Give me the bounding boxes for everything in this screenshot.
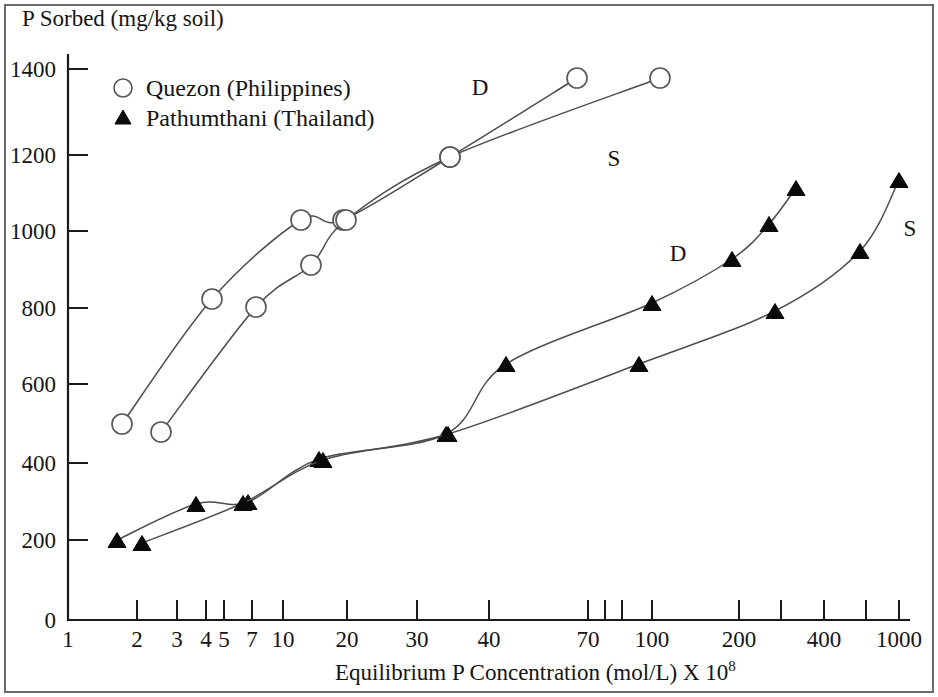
x-axis-title-text: Equilibrium P Concentration (mol/L) X 10: [335, 660, 728, 685]
filled-triangle-data-marker: [630, 357, 648, 372]
data-series: [108, 181, 805, 548]
x-tick-label: 4: [200, 627, 212, 652]
x-tick-label: 100: [635, 627, 670, 652]
open-circle-data-marker: [291, 210, 311, 230]
series-curve: [117, 188, 796, 540]
curve-labels-layer: DSDS: [472, 75, 917, 266]
x-tick-label: 10: [272, 627, 295, 652]
axis-lines: [68, 55, 909, 620]
filled-triangle-data-marker: [760, 217, 778, 232]
y-tick-label: 400: [22, 451, 57, 476]
x-tick-label: 70: [577, 627, 600, 652]
legend-item-label-quezon: Quezon (Philippines): [146, 75, 351, 101]
x-tick-label: 40: [478, 627, 501, 652]
series-curve: [161, 78, 660, 432]
open-circle-data-marker: [202, 289, 222, 309]
filled-triangle-data-marker: [851, 244, 869, 259]
filled-triangle-data-marker: [787, 181, 805, 196]
x-axis-title-exponent: 8: [728, 658, 736, 674]
x-tick-label: 5: [218, 627, 230, 652]
x-axis-ticks: 12345710203040701002004001000: [62, 600, 922, 652]
open-circle-data-marker: [336, 210, 356, 230]
open-circle-marker-icon: [114, 79, 132, 97]
data-series-layer: [108, 68, 908, 551]
axis-path: [68, 55, 909, 620]
open-circle-data-marker: [440, 147, 460, 167]
y-axis-title: P Sorbed (mg/kg soil): [22, 6, 224, 31]
y-tick-label: 600: [22, 372, 57, 397]
legend-item-label-pathumthani: Pathumthani (Thailand): [146, 105, 375, 131]
open-circle-data-marker: [301, 255, 321, 275]
open-circle-data-marker: [650, 68, 670, 88]
figure-container: P Sorbed (mg/kg soil) 020040060080010001…: [0, 0, 938, 697]
filled-triangle-marker-icon: [115, 110, 131, 124]
curve-label: D: [670, 241, 687, 266]
data-series: [133, 173, 908, 551]
legend: Quezon (Philippines) Pathumthani (Thaila…: [114, 75, 375, 131]
curve-label: S: [904, 216, 917, 241]
x-tick-label: 2: [131, 627, 143, 652]
filled-triangle-data-marker: [497, 357, 515, 372]
open-circle-data-marker: [112, 414, 132, 434]
x-tick-label: 1: [62, 627, 74, 652]
filled-triangle-data-marker: [108, 533, 126, 548]
chart-canvas: P Sorbed (mg/kg soil) 020040060080010001…: [0, 0, 938, 697]
y-tick-label: 200: [22, 528, 57, 553]
filled-triangle-data-marker: [187, 497, 205, 512]
open-circle-data-marker: [567, 68, 587, 88]
x-tick-label: 1000: [876, 627, 922, 652]
filled-triangle-data-marker: [766, 304, 784, 319]
open-circle-data-marker: [151, 422, 171, 442]
y-tick-label: 1200: [10, 143, 56, 168]
x-tick-label: 30: [406, 627, 429, 652]
filled-triangle-data-marker: [890, 173, 908, 188]
filled-triangle-data-marker: [133, 536, 151, 551]
x-tick-label: 400: [807, 627, 842, 652]
series-curve: [142, 180, 899, 543]
filled-triangle-data-marker: [643, 296, 661, 311]
x-axis-title: Equilibrium P Concentration (mol/L) X 10…: [335, 658, 736, 685]
x-tick-label: 7: [246, 627, 258, 652]
y-tick-label: 1000: [10, 219, 56, 244]
open-circle-data-marker: [246, 297, 266, 317]
x-tick-label: 200: [722, 627, 757, 652]
y-tick-label: 1400: [10, 57, 56, 82]
curve-label: S: [608, 146, 621, 171]
y-tick-label: 0: [45, 608, 57, 633]
x-tick-label: 3: [171, 627, 183, 652]
y-axis-ticks: 0200400600800100012001400: [10, 57, 88, 633]
x-tick-label: 20: [336, 627, 359, 652]
y-tick-label: 800: [22, 296, 57, 321]
curve-label: D: [472, 75, 489, 100]
